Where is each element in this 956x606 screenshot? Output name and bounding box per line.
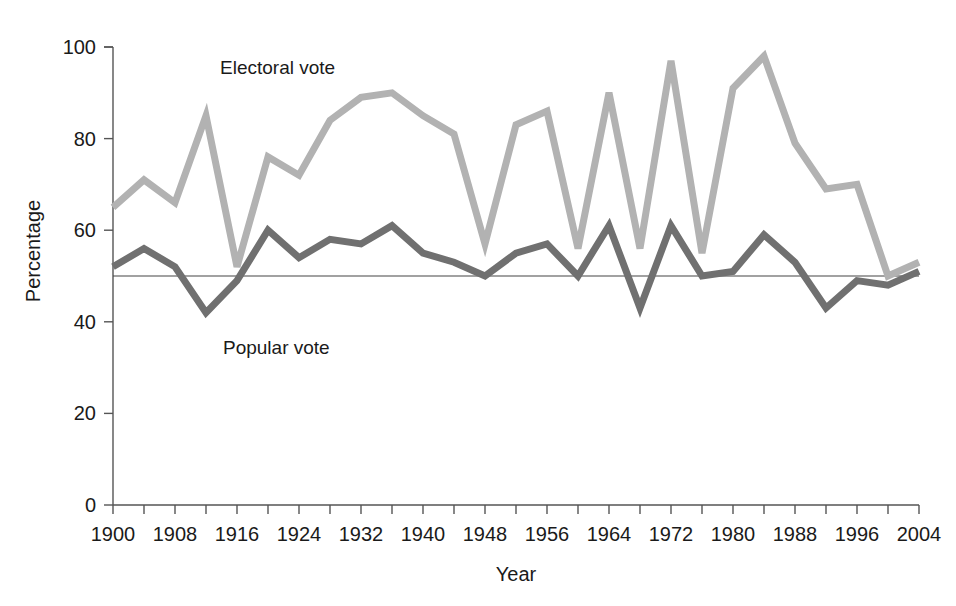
series-group	[113, 56, 919, 312]
x-tick-label: 1924	[277, 523, 322, 545]
x-tick-label: 1964	[587, 523, 632, 545]
x-tick-label: 1996	[835, 523, 880, 545]
series-label-electoral-vote: Electoral vote	[220, 57, 335, 78]
x-tick-label: 1940	[401, 523, 446, 545]
x-tick-label: 1956	[525, 523, 570, 545]
x-tick-label: 1908	[153, 523, 198, 545]
y-tick-label: 80	[74, 128, 96, 150]
series-label-popular-vote: Popular vote	[223, 337, 330, 358]
x-tick-label: 1932	[339, 523, 384, 545]
x-tick-label: 1980	[711, 523, 756, 545]
election-vote-chart: 020406080100 190019081916192419321940194…	[0, 0, 956, 606]
y-tick-label: 60	[74, 219, 96, 241]
y-tick-label: 40	[74, 311, 96, 333]
x-axis-ticks: 1900190819161924193219401948195619641972…	[91, 505, 942, 545]
y-tick-label: 100	[63, 36, 96, 58]
x-axis-title: Year	[496, 563, 537, 585]
x-tick-label: 1900	[91, 523, 136, 545]
y-axis-ticks: 020406080100	[63, 36, 113, 516]
x-tick-label: 1916	[215, 523, 260, 545]
y-tick-label: 0	[85, 494, 96, 516]
chart-canvas: 020406080100 190019081916192419321940194…	[0, 0, 956, 606]
x-tick-label: 1972	[649, 523, 694, 545]
x-tick-label: 1948	[463, 523, 508, 545]
y-axis-title: Percentage	[22, 200, 44, 302]
x-tick-label: 2004	[897, 523, 942, 545]
x-tick-label: 1988	[773, 523, 818, 545]
series-line-electoral-vote	[113, 56, 919, 276]
y-tick-label: 20	[74, 402, 96, 424]
